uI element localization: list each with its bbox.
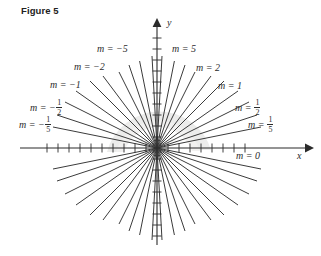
slope-label-m-neg5: m = −5 <box>97 44 128 54</box>
fraction-numerator: 1 <box>267 116 273 125</box>
fraction-denominator: 2 <box>56 108 62 117</box>
y-axis-arrow <box>153 18 162 27</box>
x-axis-label: x <box>297 150 301 161</box>
slope-label-m1: m = 1 <box>218 81 242 91</box>
slope-label-m-neg-fifth: m = −15 <box>19 116 51 134</box>
fraction-numerator: 1 <box>254 99 260 108</box>
fraction-one-half: 12 <box>56 99 62 117</box>
slope-label-m-half: m = 12 <box>235 99 260 117</box>
slope-label-m-fifth-text: m = <box>248 119 267 130</box>
fraction-denominator: 5 <box>267 125 273 134</box>
slope-label-m-neg-fifth-text: m = − <box>19 119 45 130</box>
fraction-numerator: 1 <box>45 116 51 125</box>
fraction-denominator: 5 <box>45 125 51 134</box>
x-axis-arrow <box>305 144 314 153</box>
slope-label-m-neg2: m = −2 <box>74 62 105 72</box>
fraction-one-fifth: 15 <box>267 116 273 134</box>
fraction-one-half: 12 <box>254 99 260 117</box>
slope-label-m-half-text: m = <box>235 102 254 113</box>
figure-container: Figure 5 <box>0 0 321 256</box>
slope-label-m5: m = 5 <box>172 44 196 54</box>
slope-label-m-neg-half-text: m = − <box>30 102 56 113</box>
slope-label-m2: m = 2 <box>196 63 220 73</box>
slope-label-m0: m = 0 <box>236 151 260 161</box>
slope-label-m-neg1: m = −1 <box>50 80 81 90</box>
y-axis-label: y <box>167 17 171 28</box>
fraction-one-fifth: 15 <box>45 116 51 134</box>
fraction-numerator: 1 <box>56 99 62 108</box>
slope-label-m-fifth: m = 15 <box>248 116 273 134</box>
